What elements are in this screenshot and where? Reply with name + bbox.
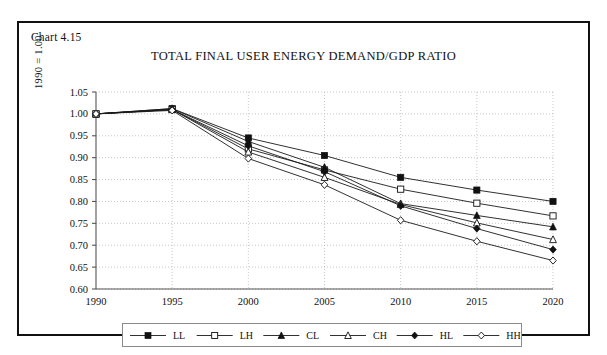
data-point-marker xyxy=(212,333,218,339)
data-point-marker xyxy=(398,174,404,180)
legend-item-label: HL xyxy=(440,330,453,341)
data-point-marker xyxy=(321,152,327,158)
y-tick-label: 0.65 xyxy=(70,262,88,273)
legend-content: LLLHCLCHHLHH xyxy=(122,323,522,347)
data-series-hh xyxy=(93,107,557,264)
x-tick-label: 2020 xyxy=(543,296,564,307)
chart-frame: Chart 4.15 TOTAL FINAL USER ENERGY DEMAN… xyxy=(17,21,590,336)
data-point-marker xyxy=(397,217,404,224)
data-point-marker xyxy=(550,257,557,264)
data-point-marker xyxy=(398,186,404,192)
axis-lines xyxy=(92,92,553,289)
legend-item-lh[interactable]: LH xyxy=(197,330,253,341)
y-tick-label: 0.60 xyxy=(70,284,88,295)
y-tick-label: 0.70 xyxy=(70,240,88,251)
data-point-marker xyxy=(550,213,556,219)
y-tick-label: 0.75 xyxy=(70,218,88,229)
x-axis-tick-labels: 1990199520002005201020152020 xyxy=(86,296,564,307)
data-point-marker xyxy=(474,238,481,245)
y-tick-label: 0.90 xyxy=(70,152,88,163)
y-tick-label: 0.85 xyxy=(70,174,88,185)
data-point-marker xyxy=(550,198,556,204)
legend-item-label: CL xyxy=(306,330,319,341)
data-point-marker xyxy=(245,155,252,162)
data-point-marker xyxy=(145,333,151,339)
data-point-marker xyxy=(478,332,484,339)
chart-plot: 0.600.650.700.750.800.850.900.951.001.05… xyxy=(19,23,588,334)
y-axis-tick-labels: 0.600.650.700.750.800.850.900.951.001.05 xyxy=(70,87,88,295)
grid-lines xyxy=(96,92,553,289)
x-tick-label: 2000 xyxy=(238,296,259,307)
data-point-marker xyxy=(321,181,328,188)
y-tick-label: 1.05 xyxy=(70,87,88,98)
x-tick-label: 1995 xyxy=(162,296,183,307)
data-series-lh xyxy=(93,106,556,219)
legend-item-label: HH xyxy=(506,330,520,341)
legend-item-ch[interactable]: CH xyxy=(330,330,387,341)
x-tick-label: 2015 xyxy=(466,296,487,307)
legend-item-cl[interactable]: CL xyxy=(263,330,319,341)
x-tick-label: 2010 xyxy=(390,296,411,307)
data-point-marker xyxy=(411,332,417,339)
legend-item-hl[interactable]: HL xyxy=(397,330,453,341)
data-series-cl xyxy=(93,105,557,230)
x-tick-label: 1990 xyxy=(86,296,107,307)
legend-item-ll[interactable]: LL xyxy=(130,330,185,341)
page-root: Chart 4.15 TOTAL FINAL USER ENERGY DEMAN… xyxy=(0,0,607,355)
data-point-marker xyxy=(474,187,480,193)
legend-item-label: LL xyxy=(173,330,185,341)
y-tick-label: 0.95 xyxy=(70,130,88,141)
legend-item-label: CH xyxy=(373,330,387,341)
data-point-marker xyxy=(550,246,557,253)
y-tick-label: 1.00 xyxy=(70,108,88,119)
x-tick-label: 2005 xyxy=(314,296,335,307)
data-series-ll xyxy=(93,106,556,205)
legend-item-label: LH xyxy=(240,330,253,341)
y-tick-label: 0.80 xyxy=(70,196,88,207)
data-point-marker xyxy=(474,200,480,206)
legend-item-hh[interactable]: HH xyxy=(463,330,520,341)
